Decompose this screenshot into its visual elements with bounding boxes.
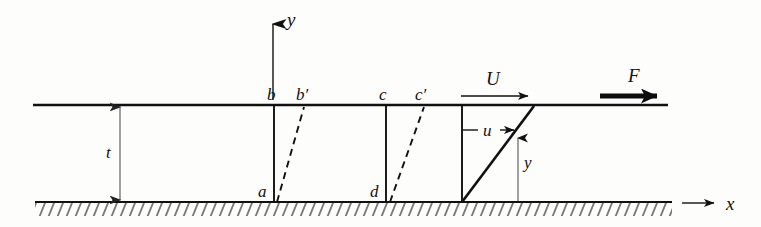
U-label: U — [486, 68, 501, 89]
t-label: t — [106, 143, 112, 162]
label-c: c — [379, 85, 387, 104]
gap-thickness-dimension: t — [106, 107, 120, 200]
label-a: a — [258, 182, 267, 201]
element-ab-deformed — [277, 107, 304, 202]
element-cd-deformed — [390, 107, 424, 202]
y-height-label: y — [522, 153, 532, 172]
label-b: b — [267, 85, 276, 104]
plate-velocity-group: U — [461, 68, 528, 96]
label-c-prime: c′ — [415, 85, 427, 104]
fluid-element-ab: b b′ a — [258, 85, 309, 202]
fluid-element-cd: c c′ d — [370, 85, 427, 202]
wall-hatching — [35, 203, 672, 216]
y-axis-label: y — [285, 9, 296, 30]
F-label: F — [627, 65, 640, 86]
u-label: u — [483, 121, 492, 140]
figure-container: y x t b b′ a c c′ d — [0, 0, 761, 227]
couette-flow-diagram: y x t b b′ a c c′ d — [0, 0, 761, 227]
label-b-prime: b′ — [296, 85, 309, 104]
bottom-wall-group — [35, 202, 672, 216]
velocity-profile-group: u y — [462, 106, 534, 202]
x-axis-group: x — [682, 193, 735, 214]
label-d: d — [370, 182, 379, 201]
applied-force-group: F — [600, 65, 657, 96]
y-axis-group: y — [273, 9, 296, 100]
x-axis-label: x — [725, 193, 735, 214]
